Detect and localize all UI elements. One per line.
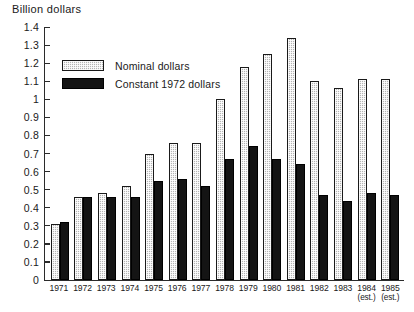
chart-title: Billion dollars [12,3,81,15]
y-axis-tick: 0.3 [24,220,45,232]
x-axis-label: 1975 [142,283,166,303]
y-axis-tick: 0.6 [24,166,45,178]
bar-constant[interactable] [60,222,69,280]
bar-constant[interactable] [249,146,258,280]
x-axis-label: 1984(est.) [355,283,379,303]
x-axis-label: 1985(est.) [378,283,402,303]
y-axis-tick: 0.7 [24,148,45,160]
bar-nominal[interactable] [358,79,367,280]
bar-constant[interactable] [343,201,352,281]
bar-constant[interactable] [296,164,305,280]
y-axis-tick: 0.9 [24,111,45,123]
bar-nominal[interactable] [287,38,296,280]
y-axis-tick: 0.4 [24,202,45,214]
bar-nominal[interactable] [310,81,319,280]
bar-constant[interactable] [272,159,281,280]
x-axis-label: 1971 [47,283,71,303]
bar-group [308,27,332,280]
bar-constant[interactable] [319,195,328,280]
x-axis-label: 1976 [165,283,189,303]
bar-constant[interactable] [201,186,210,280]
y-axis-tick: 0.8 [24,129,45,141]
bar-constant[interactable] [131,197,140,280]
bar-group [331,27,355,280]
y-axis-tick: 0.2 [24,238,45,250]
bar-nominal[interactable] [263,54,272,280]
bar-nominal[interactable] [240,67,249,280]
y-axis-tick: 1.3 [24,39,45,51]
bar-group [260,27,284,280]
bar-chart: Billion dollars 1.41.31.21.110.90.80.70.… [0,0,414,312]
x-axis-label: 1980 [260,283,284,303]
bar-nominal[interactable] [74,197,83,280]
bar-nominal[interactable] [122,186,131,280]
y-axis-tick: 1.2 [24,57,45,69]
y-axis-tick: 1.4 [24,21,45,33]
bar-group [355,27,379,280]
bar-nominal[interactable] [334,88,343,280]
bar-nominal[interactable] [216,99,225,280]
legend-label: Nominal dollars [115,60,190,72]
legend-swatch-constant [62,78,104,89]
chart-legend: Nominal dollarsConstant 1972 dollars [62,58,220,94]
x-axis-label: 1978 [213,283,237,303]
x-axis-label: 1983 [331,283,355,303]
x-axis-label-note: (est.) [355,293,379,303]
x-axis-label: 1973 [94,283,118,303]
x-axis-label-note: (est.) [378,293,402,303]
bar-constant[interactable] [154,181,163,280]
legend-item[interactable]: Constant 1972 dollars [62,76,220,91]
bar-constant[interactable] [107,197,116,280]
x-axis-labels: 1971197219731974197519761977197819791980… [44,283,404,303]
bar-group [237,27,261,280]
bar-constant[interactable] [367,193,376,280]
bar-constant[interactable] [225,159,234,280]
bar-constant[interactable] [178,179,187,280]
y-axis-tick: 1 [33,93,45,105]
y-axis-tick: 1.1 [24,75,45,87]
x-axis-label: 1982 [307,283,331,303]
bar-constant[interactable] [390,195,399,280]
x-axis-label: 1979 [236,283,260,303]
x-axis-label: 1974 [118,283,142,303]
legend-swatch-nominal [62,60,104,71]
bar-nominal[interactable] [192,143,201,280]
bar-constant[interactable] [83,197,92,280]
bar-nominal[interactable] [169,143,178,280]
bar-nominal[interactable] [145,154,154,281]
x-axis-label: 1981 [284,283,308,303]
y-axis-tick: 0.5 [24,184,45,196]
x-axis-label: 1977 [189,283,213,303]
bar-nominal[interactable] [51,224,60,280]
bar-nominal[interactable] [98,193,107,280]
y-axis-tick: 0.1 [24,256,45,268]
x-axis-label: 1972 [71,283,95,303]
legend-item[interactable]: Nominal dollars [62,58,220,73]
legend-label: Constant 1972 dollars [115,78,220,90]
bar-group [378,27,402,280]
bar-nominal[interactable] [381,79,390,280]
bar-group [284,27,308,280]
